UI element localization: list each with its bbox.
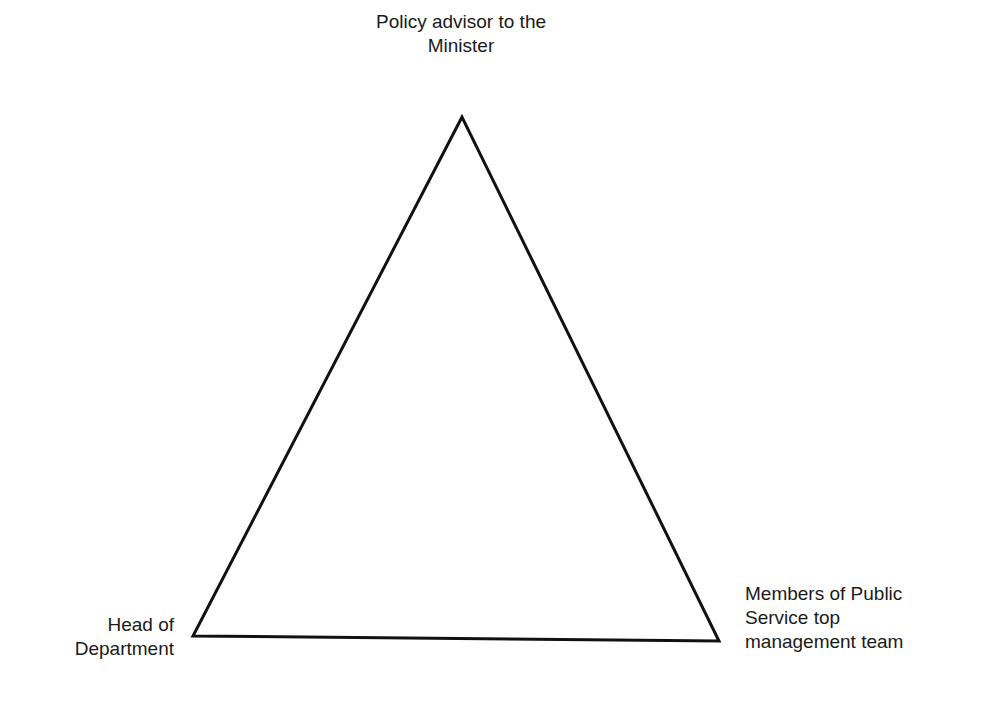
- vertex-label-bottom-left: Head of Department: [40, 613, 174, 661]
- triangle-shape: [193, 117, 719, 641]
- vertex-label-bottom-right-line-3: management team: [745, 630, 903, 654]
- vertex-label-top-line-1: Policy advisor to the: [330, 10, 592, 34]
- vertex-label-bottom-left-line-2: Department: [40, 637, 174, 661]
- vertex-label-bottom-right-line-1: Members of Public: [745, 582, 903, 606]
- vertex-label-bottom-right: Members of Public Service top management…: [745, 582, 903, 654]
- vertex-label-top-line-2: Minister: [330, 34, 592, 58]
- vertex-label-bottom-left-line-1: Head of: [40, 613, 174, 637]
- vertex-label-top: Policy advisor to the Minister: [330, 10, 592, 58]
- vertex-label-bottom-right-line-2: Service top: [745, 606, 903, 630]
